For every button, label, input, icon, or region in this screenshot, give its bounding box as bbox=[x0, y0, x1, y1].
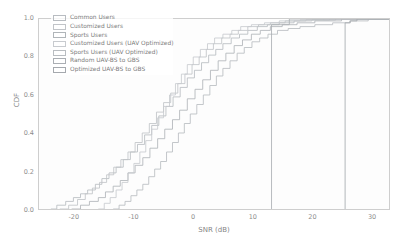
legend-swatch-icon bbox=[53, 50, 66, 56]
legend-swatch-icon bbox=[53, 24, 66, 30]
x-axis-label: SNR (dB) bbox=[38, 226, 390, 234]
legend-item[interactable]: Customized Users (UAV Optimized) bbox=[53, 40, 171, 49]
legend-item[interactable]: Random UAV-BS to GBS bbox=[53, 57, 171, 66]
y-tick-label: 0.0 bbox=[4, 206, 34, 214]
series-line bbox=[272, 19, 389, 209]
legend-item[interactable]: Optimized UAV-BS to GBS bbox=[53, 66, 171, 75]
legend-item-label: Sports Users bbox=[70, 33, 107, 39]
y-tick-label: 0.8 bbox=[4, 52, 34, 60]
legend-item-label: Sports Users (UAV Optimized) bbox=[70, 50, 158, 56]
series-line bbox=[345, 19, 389, 209]
y-tick-label: 0.4 bbox=[4, 129, 34, 137]
legend-item[interactable]: Sports Users (UAV Optimized) bbox=[53, 48, 171, 57]
legend-item[interactable]: Customized Users bbox=[53, 23, 171, 32]
legend-swatch-icon bbox=[53, 15, 66, 21]
y-axis-label: CDF bbox=[13, 70, 21, 130]
y-tick-label: 1.0 bbox=[4, 14, 34, 22]
legend-swatch-icon bbox=[53, 41, 66, 47]
x-tick-label: -20 bbox=[68, 213, 79, 221]
x-tick-label: 10 bbox=[249, 213, 257, 221]
cdf-chart-figure: 0.00.20.40.60.81.0 -20-100102030 SNR (dB… bbox=[0, 0, 402, 252]
chart-legend: Common UsersCustomized UsersSports Users… bbox=[51, 13, 173, 75]
x-tick-label: 30 bbox=[368, 213, 376, 221]
legend-swatch-icon bbox=[53, 67, 66, 73]
y-tick-label: 0.2 bbox=[4, 168, 34, 176]
legend-item[interactable]: Sports Users bbox=[53, 31, 171, 40]
legend-item-label: Customized Users (UAV Optimized) bbox=[70, 41, 174, 47]
legend-item-label: Random UAV-BS to GBS bbox=[70, 58, 139, 64]
legend-item[interactable]: Common Users bbox=[53, 14, 171, 23]
legend-item-label: Optimized UAV-BS to GBS bbox=[70, 67, 145, 73]
x-axis-ticks: -20-100102030 bbox=[38, 213, 390, 225]
legend-swatch-icon bbox=[53, 32, 66, 38]
x-tick-label: 20 bbox=[308, 213, 316, 221]
legend-item-label: Common Users bbox=[70, 15, 115, 21]
legend-item-label: Customized Users bbox=[70, 24, 123, 30]
x-tick-label: -10 bbox=[128, 213, 139, 221]
legend-swatch-icon bbox=[53, 58, 66, 64]
x-tick-label: 0 bbox=[191, 213, 195, 221]
